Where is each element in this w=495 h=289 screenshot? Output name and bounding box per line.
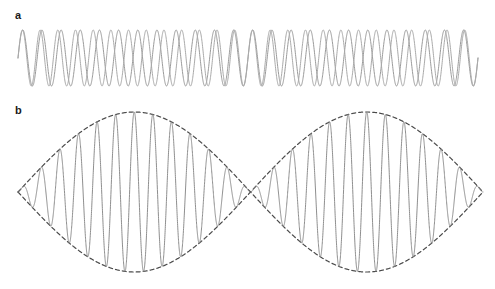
panel-b-plot [0,100,495,289]
wave-two-path [18,30,478,86]
panel-b: b [0,100,495,289]
figure-root: a b [0,0,495,289]
panel-a: a [0,0,495,100]
panel-a-plot [0,0,495,100]
resultant-wave-path [18,112,483,271]
envelope-upper-path [18,112,483,192]
envelope-lower-path [18,192,483,272]
